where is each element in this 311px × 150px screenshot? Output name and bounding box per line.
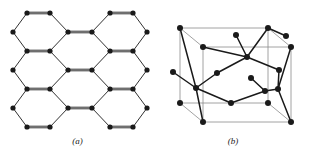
atom-node: [275, 86, 281, 92]
atom-node: [193, 85, 199, 91]
atom-node: [200, 44, 206, 50]
bond-single: [13, 70, 27, 89]
atom-node: [65, 67, 70, 72]
atom-node: [233, 32, 239, 38]
bond-single: [50, 89, 68, 108]
atom-node: [130, 10, 135, 15]
atom-node: [170, 69, 176, 75]
bond-double: [110, 50, 133, 52]
bond-single: [133, 70, 147, 89]
bond-double: [27, 88, 50, 90]
atom-node: [89, 29, 94, 34]
atom-node: [265, 25, 271, 31]
atom-node: [47, 10, 52, 15]
unit-cell-drawing: [155, 0, 311, 150]
atom-node: [144, 105, 149, 110]
atom-node: [47, 124, 52, 129]
bond: [196, 88, 231, 103]
atom-node: [24, 124, 29, 129]
bond-single: [13, 32, 27, 51]
bond-double: [68, 31, 92, 33]
atom-node: [107, 48, 112, 53]
bond-double: [110, 88, 133, 90]
atom-node: [244, 54, 250, 60]
bond-double: [68, 107, 92, 109]
bond: [203, 47, 247, 57]
atom-node: [10, 67, 15, 72]
cube-edge: [180, 28, 203, 47]
atom-node: [65, 29, 70, 34]
atom-node: [65, 105, 70, 110]
atom-node: [47, 48, 52, 53]
atom-node: [200, 119, 206, 125]
atom-node: [24, 86, 29, 91]
bond-single: [50, 70, 68, 89]
bond-single: [133, 51, 147, 70]
atom-node: [228, 100, 234, 106]
bond-single: [92, 13, 110, 32]
bond-double: [27, 50, 50, 52]
bond-single: [92, 32, 110, 51]
bond: [247, 28, 268, 57]
bond-single: [133, 108, 147, 127]
atom-node: [144, 29, 149, 34]
panel-b-unit-cell: (b): [155, 0, 311, 150]
cube-frame-group: [180, 28, 291, 122]
bond-single: [13, 51, 27, 70]
bond-single: [92, 51, 110, 70]
atom-node: [24, 10, 29, 15]
atom-node: [130, 124, 135, 129]
bond: [236, 35, 247, 57]
atom-node: [89, 67, 94, 72]
atom-group: [10, 10, 149, 129]
bond-single: [13, 13, 27, 32]
atom-node: [24, 48, 29, 53]
atom-node: [130, 48, 135, 53]
bond-double: [110, 126, 133, 128]
bond: [217, 57, 247, 73]
atom-node: [177, 25, 183, 31]
bond-single: [92, 70, 110, 89]
bond-single: [13, 89, 27, 108]
honeycomb-lattice-drawing: [0, 0, 155, 150]
atom-node: [288, 44, 294, 50]
figure-root: (a) (b): [0, 0, 311, 150]
bond: [247, 57, 279, 70]
atom-node: [10, 105, 15, 110]
atom-node: [10, 29, 15, 34]
bond-single: [50, 13, 68, 32]
double-bond-group: [27, 12, 133, 128]
single-bond-group: [13, 13, 147, 127]
panel-a-caption: (a): [0, 137, 155, 146]
bond-single: [50, 32, 68, 51]
bond-single: [133, 32, 147, 51]
bond-single: [133, 13, 147, 32]
bond-double: [27, 126, 50, 128]
atom-node: [262, 88, 268, 94]
atom-node: [107, 124, 112, 129]
bond-double: [27, 12, 50, 14]
atom-node: [276, 67, 282, 73]
bond-single: [13, 108, 27, 127]
bond-single: [92, 108, 110, 127]
atom-node: [265, 100, 271, 106]
atom-node: [107, 10, 112, 15]
atom-node: [283, 33, 289, 39]
atom-node: [130, 86, 135, 91]
atom-node: [107, 86, 112, 91]
bond-single: [50, 51, 68, 70]
bond-group: [173, 28, 291, 122]
atom-node: [214, 70, 220, 76]
panel-a-honeycomb: (a): [0, 0, 155, 150]
atom-node: [47, 86, 52, 91]
atom-node: [177, 100, 183, 106]
bond: [196, 73, 217, 88]
bond-double: [68, 69, 92, 71]
bond-single: [50, 108, 68, 127]
bond-single: [133, 89, 147, 108]
atom-node: [248, 75, 254, 81]
atom-node: [288, 119, 294, 125]
bond: [231, 91, 265, 103]
bond-single: [92, 89, 110, 108]
atom-node: [89, 105, 94, 110]
